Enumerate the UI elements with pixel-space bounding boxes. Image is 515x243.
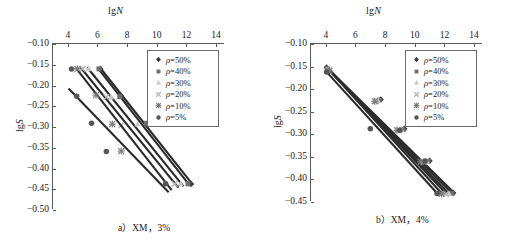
legend-item-label: ρ=10% <box>423 101 448 111</box>
y-axis-tick <box>311 202 314 203</box>
caption-a: a）XM，3% <box>118 220 170 234</box>
legend-item-10[interactable]: ρ=10% <box>152 100 213 112</box>
plot-area-b: 468101214−0.10−0.15−0.20−0.25−0.30−0.35−… <box>310 43 482 201</box>
data-point-square <box>117 94 122 99</box>
legend-item-label: ρ=20% <box>423 89 448 99</box>
x-axis-tick-label: 12 <box>175 30 197 40</box>
legend-item-5[interactable]: ρ=5% <box>410 112 471 124</box>
star-marker-icon <box>410 100 423 111</box>
y-axis-tick-label: −0.50 <box>17 204 49 214</box>
data-point-circle <box>104 149 110 155</box>
data-point-star <box>118 148 125 155</box>
x-axis-tick-label: 6 <box>344 30 366 40</box>
chart-legend: ρ=50%ρ=40%ρ=30%ρ=20%ρ=10%ρ=5% <box>405 50 477 127</box>
x-axis-tick-label: 8 <box>116 30 138 40</box>
legend-item-30[interactable]: ρ=30% <box>410 77 471 89</box>
y-axis-tick-label: −0.45 <box>17 183 49 193</box>
x-axis-title-b: lgN <box>366 5 381 16</box>
plot-area-a: 468101214−0.10−0.15−0.20−0.25−0.30−0.35−… <box>52 43 224 209</box>
legend-item-label: ρ=30% <box>423 78 448 88</box>
data-point-circle <box>368 126 374 132</box>
y-axis-tick-label: −0.25 <box>275 106 307 116</box>
legend-item-label: ρ=40% <box>165 66 190 76</box>
legend-item-label: ρ=5% <box>423 112 444 122</box>
legend-item-40[interactable]: ρ=40% <box>410 66 471 78</box>
legend-item-label: ρ=5% <box>165 112 186 122</box>
x-axis-tick-label: 14 <box>205 30 227 40</box>
legend-item-30[interactable]: ρ=30% <box>152 77 213 89</box>
data-point-circle <box>324 69 330 75</box>
y-axis-tick-label: −0.10 <box>17 38 49 48</box>
legend-item-label: ρ=10% <box>165 101 190 111</box>
y-axis-tick-label: −0.40 <box>17 163 49 173</box>
data-point-square <box>415 69 419 73</box>
y-axis-tick-label: −0.15 <box>275 61 307 71</box>
square-marker-icon <box>152 66 165 77</box>
chart-panel-b: lgN lgS 468101214−0.10−0.15−0.20−0.25−0.… <box>258 0 515 243</box>
legend-item-label: ρ=50% <box>423 55 448 65</box>
x-axis-tick-label: 14 <box>463 30 485 40</box>
star-marker-icon <box>152 100 165 111</box>
figure-container: lgN lgS 468101214−0.10−0.15−0.20−0.25−0.… <box>0 0 515 243</box>
data-point-diamond <box>156 57 161 62</box>
data-point-cross <box>414 92 419 97</box>
legend-item-50[interactable]: ρ=50% <box>152 54 213 66</box>
cross-marker-icon <box>410 89 423 100</box>
caption-b: b）XM，4% <box>376 212 429 226</box>
data-point-cross <box>156 92 161 97</box>
chart-panel-a: lgN lgS 468101214−0.10−0.15−0.20−0.25−0.… <box>0 0 257 243</box>
data-point-star <box>109 121 116 128</box>
data-point-star <box>156 103 162 109</box>
y-axis-tick-label: −0.25 <box>17 100 49 110</box>
legend-item-5[interactable]: ρ=5% <box>152 112 213 124</box>
x-axis-tick-label: 4 <box>315 30 337 40</box>
y-axis-tick-label: −0.30 <box>275 128 307 138</box>
x-axis-tick-label: 8 <box>374 30 396 40</box>
data-point-triangle <box>85 66 91 72</box>
y-axis-tick-label: −0.35 <box>17 142 49 152</box>
x-axis-tick-label: 6 <box>86 30 108 40</box>
x-axis-title-a: lgN <box>108 5 123 16</box>
y-axis-tick-label: −0.40 <box>275 173 307 183</box>
data-point-square <box>157 69 161 73</box>
circle-marker-icon <box>152 112 165 123</box>
legend-item-40[interactable]: ρ=40% <box>152 66 213 78</box>
x-axis-tick-label: 12 <box>433 30 455 40</box>
legend-item-label: ρ=50% <box>165 55 190 65</box>
legend-item-10[interactable]: ρ=10% <box>410 100 471 112</box>
y-axis-tick-label: −0.15 <box>17 59 49 69</box>
data-point-diamond <box>414 57 419 62</box>
data-point-circle <box>74 94 80 100</box>
data-point-circle <box>422 158 428 164</box>
data-point-star <box>93 92 100 99</box>
triangle-marker-icon <box>152 77 165 88</box>
legend-item-label: ρ=40% <box>423 66 448 76</box>
circle-marker-icon <box>410 112 423 123</box>
data-point-circle <box>163 181 169 187</box>
y-axis-tick <box>53 210 56 211</box>
data-point-square <box>185 181 190 186</box>
y-axis-tick-label: −0.20 <box>17 80 49 90</box>
y-axis-tick-label: −0.10 <box>275 38 307 48</box>
data-point-circle <box>69 66 75 72</box>
cross-marker-icon <box>152 89 165 100</box>
legend-item-50[interactable]: ρ=50% <box>410 54 471 66</box>
data-point-triangle <box>414 80 419 84</box>
legend-item-20[interactable]: ρ=20% <box>410 89 471 101</box>
data-point-square <box>97 66 102 71</box>
square-marker-icon <box>410 66 423 77</box>
legend-item-20[interactable]: ρ=20% <box>152 89 213 101</box>
diamond-marker-icon <box>410 54 423 65</box>
y-axis-tick-label: −0.20 <box>275 83 307 93</box>
data-point-triangle <box>156 80 161 84</box>
y-axis-tick-label: −0.30 <box>17 121 49 131</box>
y-axis-tick-label: −0.45 <box>275 196 307 206</box>
diamond-marker-icon <box>152 54 165 65</box>
data-point-star <box>414 103 420 109</box>
triangle-marker-icon <box>410 77 423 88</box>
data-point-circle <box>89 121 95 127</box>
chart-legend: ρ=50%ρ=40%ρ=30%ρ=20%ρ=10%ρ=5% <box>147 50 219 127</box>
data-point-circle <box>156 115 160 119</box>
x-axis-tick-label: 10 <box>146 30 168 40</box>
y-axis-tick-label: −0.35 <box>275 151 307 161</box>
